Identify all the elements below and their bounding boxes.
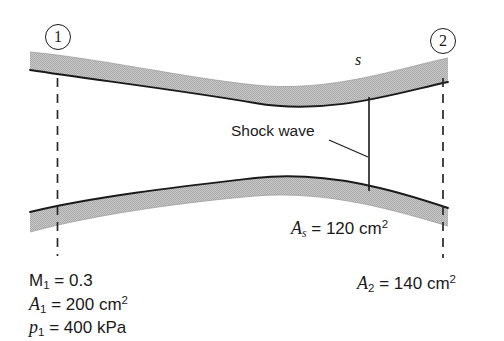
exit-area-exponent: 2 [450,273,456,285]
shock-area-equals: = [311,219,321,238]
station-marker-2-label: 2 [439,32,447,50]
shock-area-label: As = 120 cm2 [291,219,388,240]
parameter-subscript: 1 [43,279,49,291]
parameter-symbol: p [29,317,38,337]
parameter-symbol: M [29,271,43,290]
parameter-equals: = [49,318,59,337]
parameter-unit: cm [99,295,122,314]
shock-area-exponent: 2 [382,218,388,230]
exit-area-symbol: A [357,273,368,293]
shock-area-symbol: A [291,218,302,238]
exit-area-unit: cm [427,274,450,293]
station-marker-1-label: 1 [54,28,62,46]
exit-area-subscript: 2 [368,282,374,294]
station-marker-1: 1 [45,24,71,50]
parameter-symbol: A [29,294,40,314]
parameter-value: 200 [66,295,94,314]
shock-area-value: 120 [326,219,354,238]
nozzle-shock-diagram: 1 2 s Shock wave M1 = 0.3 A1 = 200 cm2 p… [0,0,504,341]
exit-area-equals: = [379,274,389,293]
parameter-row-mach: M1 = 0.3 [29,272,128,295]
parameter-row-area: A1 = 200 cm2 [29,295,128,318]
parameter-unit: kPa [97,318,126,337]
parameter-subscript: 1 [40,303,46,315]
shock-wave-callout-label: Shock wave [231,123,315,139]
parameter-equals: = [51,295,61,314]
parameter-equals: = [54,271,64,290]
shock-area-subscript: s [302,227,306,239]
parameter-row-pressure: p1 = 400 kPa [29,318,128,341]
inlet-parameter-block: M1 = 0.3 A1 = 200 cm2 p1 = 400 kPa [29,272,128,341]
exit-area-label: A2 = 140 cm2 [357,274,456,295]
station-marker-2: 2 [430,28,456,54]
parameter-exponent: 2 [122,294,128,306]
parameter-subscript: 1 [38,326,44,338]
exit-area-value: 140 [394,274,422,293]
shock-area-unit: cm [359,219,382,238]
parameter-value: 400 [64,318,92,337]
shock-section-letter: s [355,52,361,68]
parameter-value: 0.3 [69,271,93,290]
shock-wave-leader-line [329,140,368,157]
